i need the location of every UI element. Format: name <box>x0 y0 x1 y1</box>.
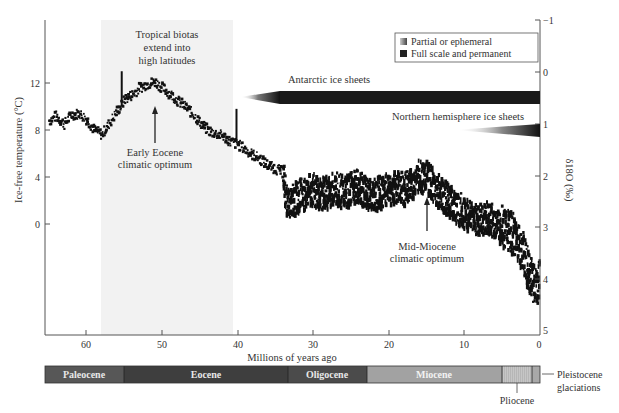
pleistocene-label-2: glaciations <box>557 382 600 393</box>
epoch-label: Paleocene <box>63 369 106 380</box>
left-tick-label: 4 <box>35 172 40 183</box>
svg-text:Early Eocene: Early Eocene <box>127 147 184 158</box>
mid-miocene-annotation: Mid-Miocene climatic optimum <box>390 197 464 264</box>
arrow-up-icon <box>424 197 430 205</box>
epoch-pleistocene <box>532 366 540 383</box>
svg-text:climatic optimum: climatic optimum <box>390 253 464 264</box>
x-tick-label: 0 <box>537 339 542 350</box>
antarctic-label: Antarctic ice sheets <box>288 74 370 85</box>
x-tick-label: 60 <box>81 339 91 350</box>
antarctic-ice-sheet-bar: Antarctic ice sheets <box>240 74 540 104</box>
right-tick-label: 0 <box>543 67 548 78</box>
left-tick-label: 0 <box>35 219 40 230</box>
northern-ice-sheet-bar: Northern hemisphere ice sheets <box>392 111 540 137</box>
northern-label: Northern hemisphere ice sheets <box>392 111 524 122</box>
right-tick-label: 3 <box>543 222 548 233</box>
legend-partial-swatch <box>400 38 407 45</box>
left-tick-label: 12 <box>30 78 40 89</box>
x-tick-label: 20 <box>384 339 394 350</box>
epoch-label: Eocene <box>191 369 222 380</box>
x-tick-label: 10 <box>459 339 469 350</box>
svg-text:high latitudes: high latitudes <box>139 55 196 66</box>
epoch-label: Miocene <box>416 369 453 380</box>
x-axis-label: Millions of years ago <box>247 352 337 363</box>
svg-text:Tropical biotas: Tropical biotas <box>136 29 199 40</box>
legend-partial-label: Partial or ephemeral <box>411 36 492 47</box>
right-tick-label: −1 <box>543 15 554 26</box>
svg-text:climatic optimum: climatic optimum <box>118 159 192 170</box>
epoch-label: Oligocene <box>306 369 349 380</box>
right-tick-label: 5 <box>543 325 548 336</box>
tropical-annotation: Tropical biotas extend into high latitud… <box>136 29 199 66</box>
legend-full-label: Full scale and permanent <box>411 48 511 59</box>
x-tick-label: 50 <box>157 339 167 350</box>
y-axis-left-label: Ice-free temperature (°C) <box>13 96 25 203</box>
right-ticks: −1 0 1 2 3 4 5 <box>535 15 554 336</box>
left-tick-label: 8 <box>35 125 40 136</box>
right-tick-label: 4 <box>543 274 548 285</box>
pleistocene-label: Pleistocene <box>557 369 603 380</box>
legend-full-swatch <box>400 50 407 57</box>
epoch-timeline: Paleocene Eocene Oligocene Miocene Plioc… <box>45 366 603 406</box>
x-tick-label: 30 <box>308 339 318 350</box>
climate-chart: 60 50 40 30 20 10 0 Millions of years ag… <box>0 0 619 413</box>
right-tick-label: 1 <box>543 119 548 130</box>
tropical-shade-band <box>101 20 233 335</box>
svg-text:Mid-Miocene: Mid-Miocene <box>398 241 456 252</box>
y-axis-right-label: δ18O (‰) <box>563 158 575 202</box>
legend: Partial or ephemeral Full scale and perm… <box>395 33 538 62</box>
epoch-pliocene <box>502 366 532 383</box>
svg-text:extend into: extend into <box>144 42 191 53</box>
right-tick-label: 2 <box>543 171 548 182</box>
left-ticks: 12 8 4 0 <box>30 78 50 230</box>
x-tick-label: 40 <box>233 339 243 350</box>
pliocene-label: Pliocene <box>500 395 535 406</box>
